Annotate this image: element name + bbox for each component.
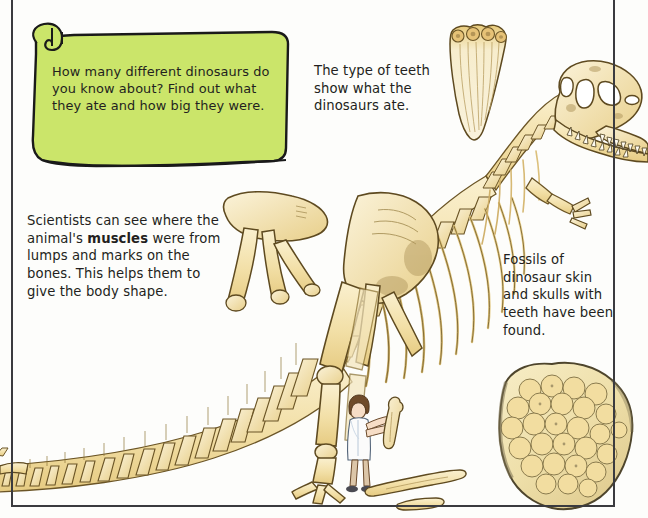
page-frame-bottom bbox=[11, 505, 615, 507]
page-frame-left bbox=[11, 0, 13, 507]
teeth-caption: The type of teeth show what the dinosaur… bbox=[314, 62, 464, 115]
muscles-caption-bold: muscles bbox=[87, 231, 148, 246]
page-canvas: How many different dinosaurs do you know… bbox=[0, 0, 648, 518]
fossils-caption: Fossils of dinosaur skin and skulls with… bbox=[503, 251, 618, 339]
scroll-banner-text: How many different dinosaurs do you know… bbox=[52, 63, 282, 114]
page-frame-right bbox=[613, 0, 615, 507]
muscles-caption: Scientists can see where the animal's mu… bbox=[27, 212, 232, 300]
